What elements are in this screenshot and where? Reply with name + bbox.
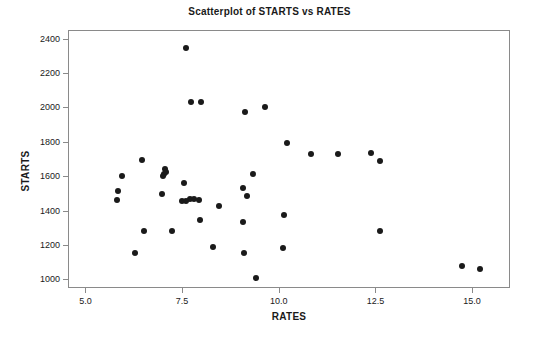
- scatter-point: [141, 228, 147, 234]
- scatter-point: [250, 171, 256, 177]
- x-tick-label: 7.5: [176, 296, 189, 306]
- scatter-point: [183, 45, 189, 51]
- x-tick-mark: [85, 288, 86, 293]
- scatterplot-figure: Scatterplot of STARTS vs RATES STARTS RA…: [0, 0, 539, 342]
- scatter-point: [197, 217, 203, 223]
- scatter-point: [477, 266, 483, 272]
- scatter-point: [188, 99, 194, 105]
- scatter-point: [240, 185, 246, 191]
- page-title: Scatterplot of STARTS vs RATES: [0, 6, 539, 17]
- scatter-point: [335, 151, 341, 157]
- x-tick-mark: [182, 288, 183, 293]
- scatter-point: [281, 212, 287, 218]
- scatter-point: [183, 198, 189, 204]
- scatter-point: [241, 250, 247, 256]
- scatter-point: [119, 173, 125, 179]
- x-tick-mark: [472, 288, 473, 293]
- scatter-point: [284, 140, 290, 146]
- scatter-point: [280, 245, 286, 251]
- scatter-point: [115, 188, 121, 194]
- scatter-point: [377, 228, 383, 234]
- scatter-point: [169, 228, 175, 234]
- scatter-point: [308, 151, 314, 157]
- scatter-point: [159, 191, 165, 197]
- y-tick-label: 1000: [26, 274, 60, 284]
- scatter-point: [139, 157, 145, 163]
- scatter-point: [210, 244, 216, 250]
- scatter-point: [196, 197, 202, 203]
- y-tick-label: 2400: [26, 34, 60, 44]
- x-tick-label: 10.0: [270, 296, 288, 306]
- scatter-point: [114, 197, 120, 203]
- y-tick-label: 2200: [26, 68, 60, 78]
- x-tick-label: 15.0: [463, 296, 481, 306]
- x-tick-label: 12.5: [367, 296, 385, 306]
- scatter-point: [244, 193, 250, 199]
- y-tick-label: 2000: [26, 102, 60, 112]
- data-points-layer: [69, 31, 509, 287]
- y-tick-label: 1600: [26, 171, 60, 181]
- scatter-point: [163, 169, 169, 175]
- scatter-point: [377, 158, 383, 164]
- y-tick-label: 1400: [26, 206, 60, 216]
- scatter-point: [198, 99, 204, 105]
- scatter-point: [262, 104, 268, 110]
- scatter-point: [368, 150, 374, 156]
- scatter-point: [181, 180, 187, 186]
- scatter-point: [253, 275, 259, 281]
- x-tick-label: 5.0: [79, 296, 92, 306]
- scatter-point: [240, 219, 246, 225]
- y-tick-label: 1800: [26, 137, 60, 147]
- x-tick-mark: [279, 288, 280, 293]
- x-axis-label: RATES: [68, 311, 510, 322]
- x-tick-mark: [375, 288, 376, 293]
- scatter-point: [132, 250, 138, 256]
- scatter-point: [459, 263, 465, 269]
- scatter-point: [242, 109, 248, 115]
- plot-area: [68, 30, 510, 288]
- y-tick-label: 1200: [26, 240, 60, 250]
- y-axis-label: STARTS: [20, 150, 31, 191]
- scatter-point: [216, 203, 222, 209]
